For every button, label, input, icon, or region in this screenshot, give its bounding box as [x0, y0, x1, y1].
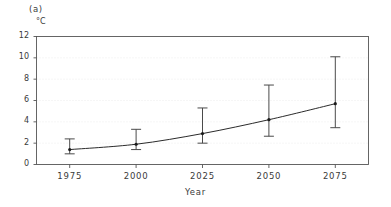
x-tick-label: 2050: [247, 171, 291, 181]
y-tick-label: 4: [8, 116, 30, 125]
y-tick-label: 10: [8, 52, 30, 61]
y-tick-label: 0: [8, 159, 30, 168]
x-tick-label: 2025: [181, 171, 225, 181]
error-bars: [65, 57, 341, 154]
y-tick-label: 2: [8, 138, 30, 147]
x-tick-label: 2000: [114, 171, 158, 181]
y-tick-label: 12: [8, 31, 30, 40]
y-tick-label: 6: [8, 95, 30, 104]
axis-ticks: [34, 37, 336, 169]
x-axis-title: Year: [0, 187, 391, 197]
chart-figure: (a) °C 024681012 19752000202520502075 Ye…: [0, 0, 391, 207]
x-tick-label: 1975: [48, 171, 92, 181]
y-tick-label: 8: [8, 74, 30, 83]
x-tick-label: 2075: [313, 171, 357, 181]
